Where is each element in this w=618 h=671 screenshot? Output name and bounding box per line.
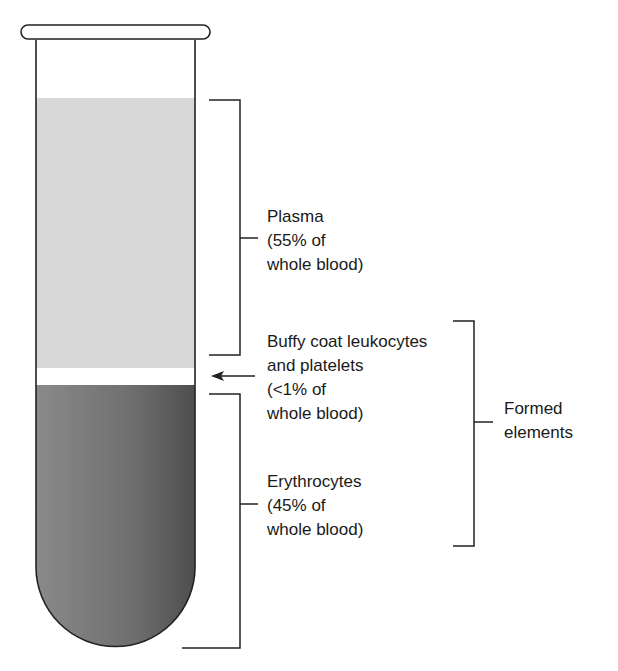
formed-label-line1: Formed [504,397,573,421]
formed-label-line2: elements [504,421,573,445]
erythrocytes-label-percent: (45% of [267,494,363,518]
plasma-layer [36,98,195,368]
buffy-label-suffix: whole blood) [267,402,427,426]
plasma-bracket [209,100,258,355]
erythrocytes-label: Erythrocytes(45% ofwhole blood) [267,470,363,542]
plasma-label-percent: (55% of [267,229,363,253]
tube-rim [21,25,210,39]
plasma-label-name: Plasma [267,205,363,229]
formed-elements-label: Formedelements [504,397,573,445]
erythrocytes-label-name: Erythrocytes [267,470,363,494]
buffy-coat-layer [36,368,195,385]
tube-contents [36,98,195,655]
buffy-arrow [211,371,255,381]
buffy-label-percent: (<1% of [267,378,427,402]
plasma-label-suffix: whole blood) [267,253,363,277]
buffy-label-name: Buffy coat leukocytes [267,330,427,354]
erythrocytes-label-suffix: whole blood) [267,518,363,542]
erythrocyte-layer [36,385,195,655]
formed-elements-bracket [453,321,493,546]
plasma-label: Plasma(55% ofwhole blood) [267,205,363,277]
buffy-coat-label: Buffy coat leukocytesand platelets(<1% o… [267,330,427,426]
buffy-label-name-2: and platelets [267,354,427,378]
